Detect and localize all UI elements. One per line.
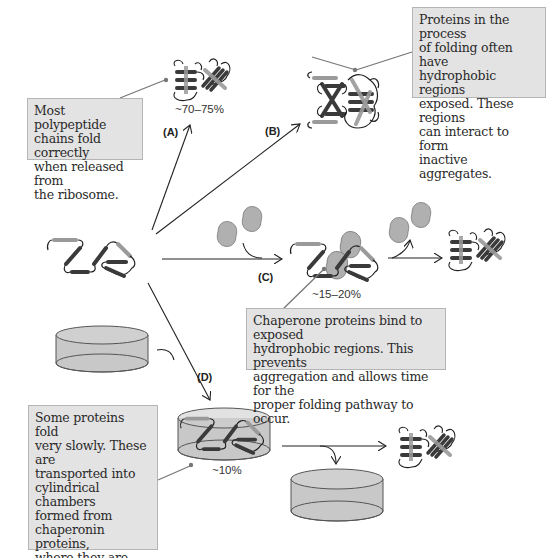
protein-aggregate [308, 72, 379, 128]
note-chaperonin: Some proteins fold very slowly. These ar… [28, 405, 158, 550]
pathway-c-percent: ~15–20% [312, 288, 361, 300]
folded-protein-c [449, 229, 505, 270]
pathway-b-arrow [156, 124, 300, 234]
note-aggregation: Proteins in the process of folding often… [412, 7, 546, 98]
pathway-a-percent: ~70–75% [175, 103, 224, 115]
pathway-d-label: (D) [197, 371, 212, 383]
chaperone-proteins-released [388, 202, 442, 258]
chaperonin-release [282, 446, 386, 464]
note-correct-folding: Most polypeptide chains fold correctly w… [27, 98, 143, 160]
chaperonin-cylinder-empty-left [56, 326, 174, 372]
unfolded-polypeptide [47, 238, 134, 276]
folded-protein-d [399, 426, 455, 467]
chaperonin-cylinder-empty-right [291, 469, 383, 521]
pathway-b-label: (B) [265, 125, 280, 137]
pathway-d-percent: ~10% [212, 464, 242, 476]
chaperone-proteins-incoming [217, 206, 262, 258]
pathway-a-arrow [152, 125, 190, 230]
pathway-c-label: (C) [258, 271, 273, 283]
note-chaperone: Chaperone proteins bind to exposed hydro… [246, 308, 446, 370]
chaperone-bound-chain [290, 231, 377, 280]
folded-protein-a [174, 59, 230, 100]
pathway-a-label: (A) [163, 126, 178, 138]
